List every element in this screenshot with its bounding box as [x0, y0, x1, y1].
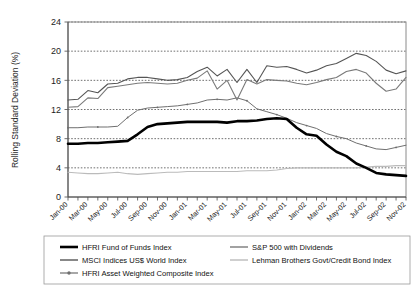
plot-frame: [68, 22, 406, 197]
series-line: [68, 166, 406, 175]
y-axis-title: Rolling Standard Deviation (%): [10, 52, 20, 168]
x-tick-label: May-00: [86, 200, 109, 223]
x-axis-labels: Jan-00Mar-00May-00Jul-00Sep-00Nov-00Jan-…: [48, 200, 408, 223]
y-tick-label: 20: [51, 46, 61, 56]
legend-label: MSCI Indices US$ World Index: [82, 256, 187, 265]
legend-label: Lehman Brothers Govt/Credit Bond Index: [252, 256, 391, 265]
series-marker: [365, 145, 367, 147]
series-marker: [97, 126, 99, 128]
y-tick-label: 16: [51, 76, 61, 86]
series-marker: [186, 104, 188, 106]
series-marker: [157, 106, 159, 108]
series-marker: [67, 127, 69, 129]
x-tick-label: Mar-00: [67, 200, 89, 222]
gridlines: [68, 22, 406, 168]
series-line: [68, 53, 406, 100]
series-marker: [306, 125, 308, 127]
series-marker: [395, 147, 397, 149]
chart-figure: Rolling Standard Deviation (%) 048121620…: [0, 0, 415, 292]
x-tick-label: Mar-01: [186, 200, 208, 222]
x-axis-ticks: [68, 197, 406, 201]
chart-legend: HFRI Fund of Funds IndexMSCI Indices US$…: [44, 236, 410, 284]
x-tick-label: Sep-00: [126, 200, 149, 223]
x-tick-label: Jan-02: [286, 200, 308, 222]
data-series: [67, 53, 406, 176]
x-tick-label: Mar-02: [305, 200, 327, 222]
y-tick-label: 0: [56, 192, 61, 202]
y-tick-label: 4: [56, 163, 61, 173]
x-tick-label: Sep-02: [365, 200, 388, 223]
legend-item[interactable]: HFRI Asset Weighted Composite Index: [60, 269, 214, 278]
series-marker: [127, 117, 129, 119]
series-marker: [276, 114, 278, 116]
x-tick-label: Jan-01: [167, 200, 189, 222]
legend-label: HFRI Fund of Funds Index: [82, 243, 172, 252]
legend-item[interactable]: MSCI Indices US$ World Index: [60, 256, 187, 265]
x-tick-label: Nov-02: [385, 200, 408, 223]
y-tick-label: 12: [51, 105, 61, 115]
legend-swatch-marker: [67, 271, 70, 274]
y-tick-label: 8: [56, 134, 61, 144]
y-tick-label: 24: [51, 17, 61, 27]
series-line: [68, 118, 406, 176]
series-line: [68, 69, 406, 107]
legend-item[interactable]: HFRI Fund of Funds Index: [60, 243, 172, 252]
series-marker: [246, 100, 248, 102]
x-tick-label: May-02: [324, 200, 347, 223]
x-tick-label: Nov-00: [146, 200, 169, 223]
series-marker: [336, 136, 338, 138]
rolling-standard-deviation-chart: Rolling Standard Deviation (%) 048121620…: [0, 0, 415, 292]
legend-label: S&P 500 with Dividends: [252, 243, 333, 252]
x-tick-label: Sep-01: [245, 200, 268, 223]
legend-item[interactable]: Lehman Brothers Govt/Credit Bond Index: [230, 256, 391, 265]
x-tick-label: May-01: [205, 200, 228, 223]
y-axis-title-text: Rolling Standard Deviation (%): [10, 52, 20, 168]
legend-item[interactable]: S&P 500 with Dividends: [230, 243, 333, 252]
series-marker: [216, 98, 218, 100]
legend-label: HFRI Asset Weighted Composite Index: [82, 269, 214, 278]
plot-area-border: [68, 22, 406, 197]
y-axis-ticks: 04812162024: [51, 17, 68, 202]
x-tick-label: Jan-00: [48, 200, 70, 222]
x-tick-label: Nov-01: [265, 200, 288, 223]
